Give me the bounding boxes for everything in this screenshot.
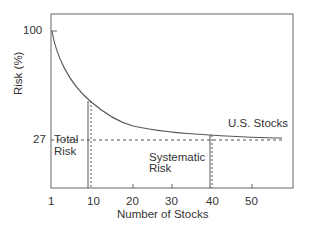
total-risk-label-line2: Risk [54,146,76,158]
x-tick-label-30: 30 [165,196,178,208]
x-tick-label-10: 10 [87,196,100,208]
y-tick-label-100: 100 [23,25,42,37]
y-tick-label-27: 27 [33,134,46,146]
total-risk-label-line1: Total [54,134,78,146]
x-axis-title: Number of Stocks [117,209,208,221]
y-axis-title: Risk (%) [12,52,24,95]
x-tick-label-40: 40 [206,196,219,208]
x-tick-label-20: 20 [126,196,139,208]
x-tick-label-1: 1 [48,196,54,208]
systematic-risk-label-line2: Risk [149,163,171,175]
series-label: U.S. Stocks [228,118,288,130]
x-tick-label-50: 50 [245,196,258,208]
